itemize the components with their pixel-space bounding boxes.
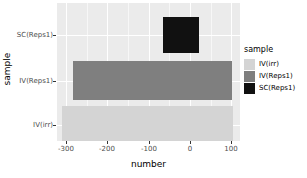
x-tick-label-minus200: -200 [99,145,115,153]
x-tick-mark [66,141,67,144]
bar-chart-figure: -300 -200 -100 0 100 SC(Reps1) IV(Reps1)… [0,0,307,178]
plot-panel [57,3,240,141]
legend: sample IV(irr) IV(Reps1) SC(Reps1) [244,45,307,94]
y-tick-label-sc-reps1: SC(Reps1) [17,31,53,39]
bar-iv-irr[interactable] [62,106,233,141]
x-tick-mark [149,141,150,144]
legend-title: sample [244,45,307,55]
legend-key-iv-irr [244,59,255,70]
legend-item-iv-reps1[interactable]: IV(Reps1) [244,70,307,82]
y-tick-label-iv-irr: IV(irr) [33,121,53,129]
bar-iv-reps1[interactable] [73,61,232,100]
y-tick-mark [53,125,56,126]
bar-sc-reps1[interactable] [163,17,199,53]
x-tick-label-minus300: -300 [58,145,74,153]
legend-label-iv-irr: IV(irr) [259,60,279,68]
x-tick-label-100: 100 [224,145,237,153]
legend-swatch-icon [244,59,255,70]
legend-swatch-icon [244,83,255,94]
legend-label-sc-reps1: SC(Reps1) [259,84,295,92]
y-axis-title: sample [2,39,12,99]
x-tick-mark [107,141,108,144]
legend-item-iv-irr[interactable]: IV(irr) [244,58,307,70]
legend-key-iv-reps1 [244,71,255,82]
x-tick-label-zero: 0 [188,145,192,153]
y-tick-label-iv-reps1: IV(Reps1) [19,77,53,85]
x-tick-mark [231,141,232,144]
y-tick-mark [53,35,56,36]
x-axis-title: number [57,159,240,169]
x-tick-label-minus100: -100 [141,145,157,153]
legend-key-sc-reps1 [244,83,255,94]
legend-label-iv-reps1: IV(Reps1) [259,72,293,80]
y-tick-mark [53,81,56,82]
gridline-major-horizontal [57,35,240,36]
legend-swatch-icon [244,71,255,82]
legend-item-sc-reps1[interactable]: SC(Reps1) [244,82,307,94]
x-tick-mark [190,141,191,144]
